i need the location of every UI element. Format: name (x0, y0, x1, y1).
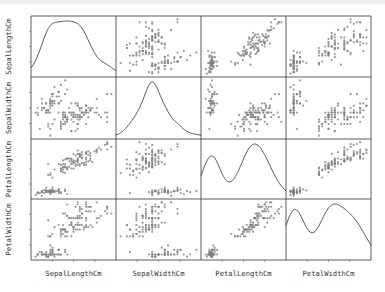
data-point (346, 50, 348, 52)
data-point (87, 112, 89, 114)
data-point (77, 164, 79, 166)
data-point (79, 116, 81, 118)
data-point (246, 112, 248, 114)
data-point (72, 231, 74, 233)
data-point (157, 156, 159, 158)
data-point (129, 235, 131, 237)
data-point (241, 233, 243, 235)
data-point (60, 123, 62, 125)
data-point (356, 21, 358, 23)
data-point (148, 228, 150, 230)
data-point (176, 143, 178, 145)
data-point (70, 235, 72, 237)
data-point (362, 116, 364, 118)
data-point (170, 148, 172, 150)
data-point (89, 206, 91, 208)
data-point (106, 93, 108, 95)
data-point (151, 210, 153, 212)
data-point (106, 116, 108, 118)
data-point (145, 21, 147, 23)
data-point (253, 226, 255, 228)
data-point (244, 52, 246, 54)
data-point (362, 36, 364, 38)
data-point (337, 158, 339, 160)
data-point (252, 109, 254, 111)
data-point (132, 235, 134, 237)
data-point (270, 116, 272, 118)
data-point (207, 88, 209, 90)
data-point (129, 174, 131, 176)
data-point (277, 210, 279, 212)
data-point (216, 93, 218, 95)
data-point (324, 116, 326, 118)
data-point (334, 53, 336, 55)
data-point (75, 224, 77, 226)
data-point (340, 64, 342, 66)
data-point (365, 105, 367, 107)
data-point (266, 208, 268, 210)
data-point (334, 130, 336, 132)
data-point (135, 64, 137, 66)
data-point (251, 112, 253, 114)
data-point (135, 224, 137, 226)
data-point (246, 224, 248, 226)
data-point (362, 109, 364, 111)
data-point (85, 152, 87, 154)
data-point (350, 157, 352, 159)
data-point (79, 206, 81, 208)
data-point (346, 118, 348, 120)
data-point (151, 148, 153, 150)
y-axis-labels: SepalLengthCm SepalWidthCm PetalLengthCm… (4, 18, 13, 255)
data-point (72, 121, 74, 123)
data-point (346, 26, 348, 28)
data-point (230, 61, 232, 63)
data-point (62, 163, 64, 165)
data-point (210, 112, 212, 114)
data-point (138, 55, 140, 57)
data-point (39, 251, 41, 253)
panel-SepalLengthCm-vs-PetalLengthCm (205, 18, 283, 75)
data-point (79, 107, 81, 109)
data-point (157, 191, 159, 193)
data-point (151, 158, 153, 160)
data-point (145, 231, 147, 233)
data-point (274, 213, 276, 215)
data-point (96, 151, 98, 153)
data-point (77, 215, 79, 217)
data-point (243, 45, 245, 47)
data-point (212, 244, 214, 246)
data-point (77, 114, 79, 116)
data-point (135, 36, 137, 38)
kde-curve (31, 21, 116, 71)
data-point (280, 21, 282, 23)
data-point (296, 100, 298, 102)
data-point (257, 118, 259, 120)
data-point (334, 161, 336, 163)
data-point (98, 217, 100, 219)
data-point (98, 147, 100, 149)
data-point (85, 219, 87, 221)
data-point (214, 52, 216, 54)
data-point (257, 107, 259, 109)
data-point (259, 206, 261, 208)
data-point (129, 167, 131, 169)
data-point (211, 79, 213, 81)
data-point (110, 146, 112, 148)
data-point (250, 224, 252, 226)
data-point (257, 33, 259, 35)
data-point (89, 107, 91, 109)
data-point (337, 118, 339, 120)
data-point (269, 105, 271, 107)
data-point (157, 41, 159, 43)
data-point (334, 33, 336, 35)
data-point (41, 98, 43, 100)
data-point (365, 42, 367, 44)
data-point (167, 244, 169, 246)
data-point (337, 29, 339, 31)
data-point (145, 210, 147, 212)
data-point (207, 50, 209, 52)
data-point (64, 114, 66, 116)
data-point (337, 102, 339, 104)
data-point (234, 62, 236, 64)
data-point (257, 112, 259, 114)
